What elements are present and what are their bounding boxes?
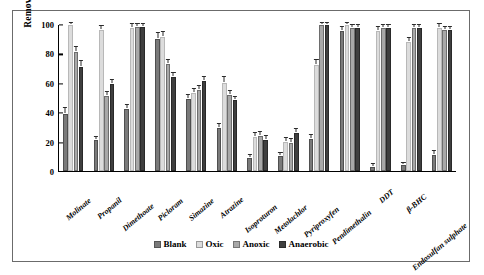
error-bar-cap [314,59,318,60]
bar-rect [135,27,140,171]
bar-anoxic-metolachlor [289,25,294,171]
bar-rect [376,31,381,171]
error-bar-cap [161,31,165,32]
bar-oxic-propanil [99,25,104,171]
bar-group [278,25,299,171]
error-bar-cap [166,59,170,60]
error-bar [291,139,292,142]
y-tick-label-100: 100 [41,20,59,30]
bar-rect [155,39,160,171]
error-bar [75,47,76,51]
error-bar-cap [448,26,452,27]
x-axis-label: Dimethoate [121,202,156,233]
error-bar-cap [141,23,145,24]
error-bar [285,138,286,141]
error-bar-cap [443,26,447,27]
error-bar [142,24,143,26]
bar-blank-atrazine [217,25,222,171]
error-bar [137,24,138,26]
bar-anaerobic-molinate [79,25,84,171]
error-bar [168,60,169,63]
bar-oxic-dimethoate [130,25,135,171]
bar-rect [160,37,165,171]
error-bar [377,27,378,30]
bar-rect [79,67,84,171]
error-bar [260,132,261,135]
bar-rect [253,137,258,171]
error-bar [111,80,112,83]
bar-anaerobic-pyriproxyfen [325,25,330,171]
error-bar [403,163,404,164]
bar-anoxic-propanil [104,25,109,171]
bar-rect [442,30,447,171]
x-axis-label: Propanil [95,196,123,221]
x-axis-label: Molinate [64,196,93,222]
bar-oxic-ddt [376,25,381,171]
bar-rect [448,30,453,171]
bar-blank-dimethoate [124,25,129,171]
legend-item-blank[interactable]: Blank [154,239,187,249]
bar-blank-propanil [94,25,99,171]
error-bar-cap [222,76,226,77]
error-bar-cap [401,162,405,163]
error-bar-cap [371,163,375,164]
error-bar [408,38,409,41]
legend-item-oxic[interactable]: Oxic [196,239,224,249]
legend-item-anaerobic[interactable]: Anaerobic [279,239,329,249]
error-bar-cap [437,23,441,24]
bar-rect [227,95,232,171]
error-bar [413,25,414,27]
bar-rect [278,156,283,171]
bar-rect [355,28,360,171]
bar-rect [247,158,252,171]
bar-anoxic-pendimethalin [350,25,355,171]
error-bar-cap [186,94,190,95]
error-bar-cap [110,79,114,80]
error-bar [341,27,342,30]
error-bar [265,136,266,139]
bar-blank-isoproturon [247,25,252,171]
bar-rect [314,65,319,171]
bar-rect [432,155,437,171]
bar-rect [412,28,417,171]
bar-rect [309,139,314,171]
error-bar-cap [253,132,257,133]
bar-oxic-molinate [68,25,73,171]
bar-anaerobic-dimethoate [140,25,145,171]
error-bar-cap [289,138,293,139]
error-bar-cap [432,150,436,151]
error-bar-cap [202,76,206,77]
error-bar [162,32,163,36]
bar-rect [171,77,176,171]
y-tick-label-80: 80 [46,49,60,59]
error-bar [316,60,317,64]
bar-anaerobic-picloram [171,25,176,171]
bar-rect [340,31,345,171]
legend-item-anoxic[interactable]: Anoxic [233,239,270,249]
bar-rect [289,143,294,171]
chart-legend: BlankOxicAnoxicAnaerobic [13,239,469,249]
bar-rect [197,90,202,171]
bar-groups [59,25,456,171]
bar-group [155,25,176,171]
error-bar [157,33,158,37]
bar-rect [124,109,129,171]
bar-oxic-simazine [191,25,196,171]
bar-anoxic-atrazine [227,25,232,171]
error-bar-cap [340,26,344,27]
bar-rect [283,142,288,171]
error-bar [224,77,225,81]
bar-anaerobic-pendimethalin [355,25,360,171]
bar-blank--bhc [401,25,406,171]
bar-rect [401,165,406,171]
error-bar [70,23,71,24]
bar-rect [99,30,104,171]
bar-anoxic-molinate [74,25,79,171]
error-bar [173,73,174,76]
legend-swatch-icon [279,241,286,248]
error-bar [193,89,194,92]
error-bar-cap [68,22,72,23]
error-bar [357,25,358,27]
bar-rect [406,42,411,171]
error-bar-cap [233,96,237,97]
